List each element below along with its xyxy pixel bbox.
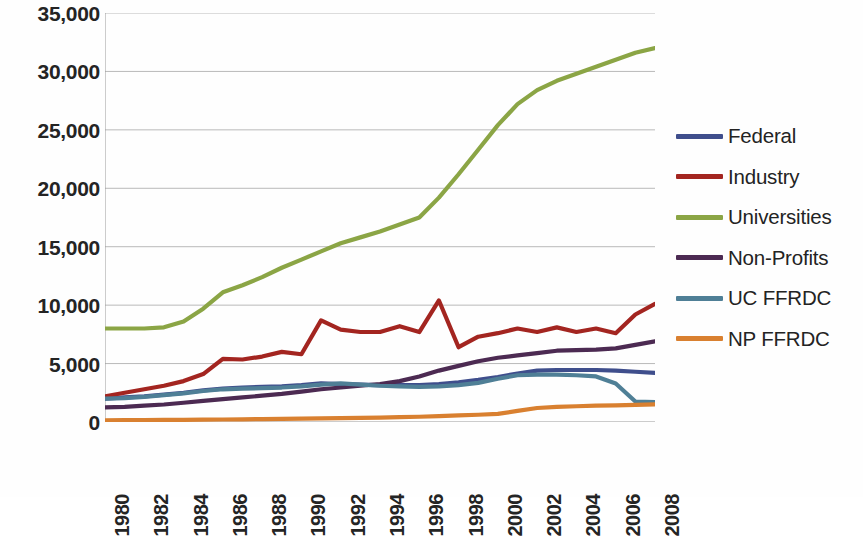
x-axis-tick-label: 1986 — [230, 494, 250, 537]
legend-item-label: NP FFRDC — [728, 327, 830, 351]
x-axis-tick-label: 1980 — [112, 494, 132, 537]
x-axis-tick-label: 1988 — [269, 494, 289, 537]
legend-item-universities[interactable]: Universities — [676, 197, 863, 238]
legend-color-swatch — [676, 296, 723, 301]
y-axis-tick-label: 25,000 — [0, 119, 100, 140]
y-axis-tick-label: 30,000 — [0, 61, 100, 82]
legend-item-np-ffrdc[interactable]: NP FFRDC — [676, 319, 863, 360]
x-axis-tick-label: 1996 — [426, 494, 446, 537]
legend-item-label: Universities — [728, 205, 832, 229]
x-axis-tick-label: 1984 — [191, 494, 211, 537]
x-axis-tick-label: 2002 — [544, 494, 564, 537]
x-axis-tick-label: 1990 — [308, 494, 328, 537]
x-axis-tick-label: 1998 — [466, 494, 486, 537]
y-axis-tick-label: 5,000 — [0, 353, 100, 374]
legend-item-label: Industry — [728, 165, 799, 189]
y-axis-tick-label: 0 — [0, 412, 100, 433]
legend-color-swatch — [676, 174, 723, 179]
y-axis-tick-label: 15,000 — [0, 236, 100, 257]
legend-item-label: Non-Profits — [728, 246, 828, 270]
legend-item-label: Federal — [728, 124, 796, 148]
legend-item-label: UC FFRDC — [728, 286, 831, 310]
legend-item-non-profits[interactable]: Non-Profits — [676, 238, 863, 279]
y-axis-tick-label: 35,000 — [0, 3, 100, 24]
x-axis-tick-label: 2008 — [662, 494, 682, 537]
x-axis-tick-label: 2004 — [583, 494, 603, 537]
x-axis-tick-label: 1982 — [151, 494, 171, 537]
plot-svg — [105, 13, 655, 422]
series-line-np-ffrdc — [105, 404, 655, 420]
x-axis-tick-label: 2006 — [623, 494, 643, 537]
plot-area — [105, 13, 655, 422]
y-axis-tick-label: 20,000 — [0, 178, 100, 199]
legend-item-federal[interactable]: Federal — [676, 116, 863, 157]
x-axis: 1980198219841986198819901992199419961998… — [105, 428, 655, 497]
legend-item-industry[interactable]: Industry — [676, 157, 863, 198]
x-axis-tick-label: 1994 — [387, 494, 407, 537]
legend-color-swatch — [676, 215, 723, 220]
legend-item-uc-ffrdc[interactable]: UC FFRDC — [676, 278, 863, 319]
x-axis-tick-label: 1992 — [348, 494, 368, 537]
y-axis-tick-label: 10,000 — [0, 295, 100, 316]
x-axis-tick-label: 2000 — [505, 494, 525, 537]
legend-color-swatch — [676, 134, 723, 139]
chart-legend: FederalIndustryUniversitiesNon-ProfitsUC… — [676, 116, 863, 359]
legend-color-swatch — [676, 336, 723, 341]
y-axis: 05,00010,00015,00020,00025,00030,00035,0… — [0, 0, 100, 497]
legend-color-swatch — [676, 255, 723, 260]
